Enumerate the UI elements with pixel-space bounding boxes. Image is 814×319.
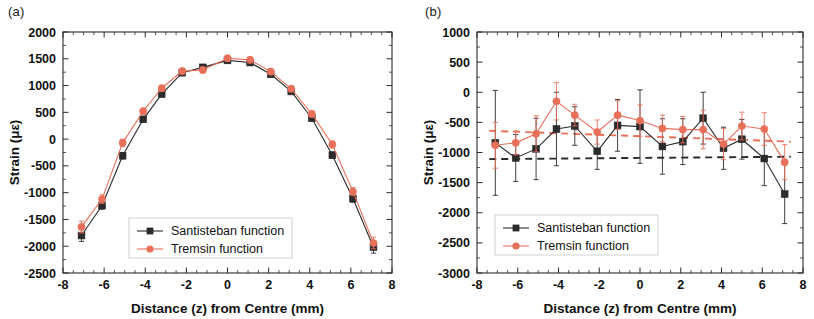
y-tick-label: 0 [49, 133, 56, 147]
x-tick-label: -6 [512, 278, 523, 292]
data-point-marker [140, 108, 147, 115]
data-point-marker [119, 139, 126, 146]
y-tick-label: -500 [31, 159, 56, 173]
data-point-marker [594, 148, 601, 155]
y-tick-label: -2500 [438, 236, 470, 250]
legend: Santisteban functionTremsin function [129, 218, 292, 258]
x-axis-title: Distance (z) from Centre (mm) [544, 301, 737, 316]
chart-panel-b: (b) -8-6-4-20246810005000-500-1000-1500-… [407, 0, 814, 319]
data-point-marker [761, 125, 768, 132]
panel-b-plot: -8-6-4-20246810005000-500-1000-1500-2000… [407, 0, 814, 319]
legend-marker [512, 242, 519, 249]
chart-panel-a: (a) -8-6-4-2024682000150010005000-500-10… [0, 0, 407, 319]
x-tick-label: 8 [800, 278, 807, 292]
data-point-marker [98, 195, 105, 202]
y-tick-label: 1000 [28, 79, 56, 93]
x-tick-label: -2 [181, 278, 192, 292]
x-tick-label: 0 [224, 278, 231, 292]
legend-label: Tremsin function [171, 242, 263, 256]
data-point-marker [761, 155, 768, 162]
x-tick-label: 4 [718, 278, 725, 292]
data-point-marker [781, 191, 788, 198]
y-tick-label: 1000 [442, 26, 470, 40]
x-tick-label: -2 [594, 278, 605, 292]
data-point-marker [349, 188, 356, 195]
y-tick-label: -2500 [24, 267, 56, 281]
legend: Santisteban functionTremsin function [495, 215, 658, 255]
x-tick-label: 0 [637, 278, 644, 292]
data-point-marker [781, 159, 788, 166]
data-point-marker [308, 110, 315, 117]
y-tick-label: -1000 [24, 186, 56, 200]
y-tick-label: -500 [445, 116, 470, 130]
legend-marker [146, 245, 153, 252]
data-point-marker [512, 139, 519, 146]
y-tick-label: 0 [463, 86, 470, 100]
data-point-marker [119, 152, 126, 159]
y-tick-label: -1500 [438, 176, 470, 190]
data-point-marker [329, 152, 336, 159]
y-tick-label: -1000 [438, 146, 470, 160]
data-point-marker [78, 223, 85, 230]
panel-a-plot: -8-6-4-2024682000150010005000-500-1000-1… [0, 0, 407, 319]
x-tick-label: 6 [347, 278, 354, 292]
x-tick-label: 2 [265, 278, 272, 292]
legend-label: Santisteban function [171, 224, 284, 238]
legend-marker [513, 225, 520, 232]
data-point-marker [700, 126, 707, 133]
data-point-marker [179, 67, 186, 74]
legend-label: Tremsin function [537, 239, 629, 253]
data-point-marker [636, 117, 643, 124]
y-tick-label: 1500 [28, 52, 56, 66]
x-tick-label: 8 [389, 278, 396, 292]
x-tick-label: -8 [57, 278, 68, 292]
x-tick-label: 6 [759, 278, 766, 292]
data-point-marker [288, 85, 295, 92]
y-axis-title: Strain (με) [7, 120, 22, 186]
data-point-marker [224, 55, 231, 62]
data-point-marker [659, 143, 666, 150]
y-tick-label: 500 [449, 56, 470, 70]
data-point-marker [329, 141, 336, 148]
x-tick-label: -4 [553, 278, 564, 292]
data-point-marker [659, 125, 666, 132]
data-point-marker [532, 130, 539, 137]
legend-label: Santisteban function [537, 221, 650, 235]
data-point-marker [553, 98, 560, 105]
x-tick-label: -8 [471, 278, 482, 292]
data-point-marker [738, 122, 745, 129]
data-point-marker [140, 116, 147, 123]
data-point-marker [512, 155, 519, 162]
data-point-marker [199, 66, 206, 73]
data-point-marker [679, 126, 686, 133]
x-tick-label: 4 [306, 278, 313, 292]
x-tick-label: -6 [99, 278, 110, 292]
y-tick-label: -2000 [438, 206, 470, 220]
figure-container: (a) -8-6-4-2024682000150010005000-500-10… [0, 0, 814, 319]
y-tick-label: -1500 [24, 213, 56, 227]
data-point-marker [267, 68, 274, 75]
data-point-marker [571, 112, 578, 119]
y-tick-label: -2000 [24, 240, 56, 254]
data-point-marker [158, 85, 165, 92]
y-tick-label: -3000 [438, 267, 470, 281]
data-point-marker [247, 56, 254, 63]
x-axis-title: Distance (z) from Centre (mm) [131, 301, 324, 316]
data-point-marker [594, 128, 601, 135]
y-tick-label: 500 [35, 106, 56, 120]
data-point-marker [614, 112, 621, 119]
x-tick-label: 2 [677, 278, 684, 292]
data-point-marker [720, 140, 727, 147]
x-tick-label: -4 [140, 278, 151, 292]
y-tick-label: 2000 [28, 26, 56, 40]
data-point-marker [553, 126, 560, 133]
y-axis-title: Strain (με) [421, 120, 436, 186]
data-point-marker [370, 239, 377, 246]
data-point-marker [492, 142, 499, 149]
legend-marker [147, 228, 154, 235]
